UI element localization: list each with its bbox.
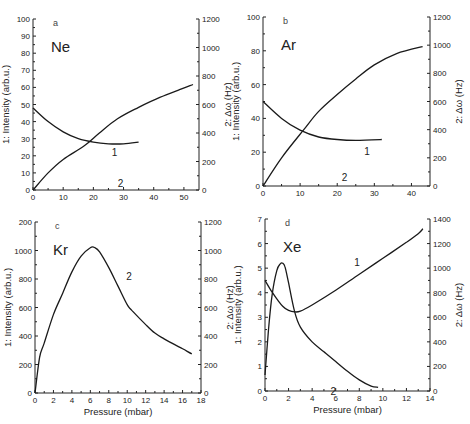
x-tick-label: 40	[149, 193, 158, 202]
x-tick-label: 2	[51, 396, 56, 405]
y-tick-label-right: 0	[204, 389, 209, 398]
y-tick-label-right: 1200	[204, 218, 222, 227]
y-tick-label-left: 4	[258, 289, 263, 298]
figure: 0102030405001020304050607080901000200400…	[0, 0, 470, 424]
y-tick-label-left: 7	[258, 215, 263, 224]
y-tick-label-left: 40	[251, 114, 260, 123]
y-tick-label-left: 6	[258, 240, 263, 249]
gas-label: Kr	[53, 241, 68, 258]
y-tick-label-right: 1000	[433, 264, 451, 273]
y-tick-label-left: 40	[21, 118, 30, 127]
y-tick-label-right: 200	[433, 154, 447, 163]
y-tick-label-right: 800	[433, 289, 447, 298]
x-tick-label: 30	[119, 193, 128, 202]
y-tick-label-left: 1	[258, 362, 263, 371]
y-tick-label-left: 3	[258, 313, 263, 322]
y-tick-label-left: 800	[19, 275, 33, 284]
panel-c: 0246810121416180200400600800100020002004…	[2, 218, 235, 417]
y-tick-label-right: 1000	[202, 44, 220, 53]
y-tick-label-right: 0	[202, 186, 207, 195]
x-axis-title: Pressure (mbar)	[313, 404, 382, 415]
y-tick-label-left: 0	[258, 387, 263, 396]
x-tick-label: 8	[107, 396, 112, 405]
y-tick-label-right: 200	[202, 158, 216, 167]
y-axis-left-title: 1: Intensity (arb.u.)	[0, 65, 11, 144]
y-tick-label-left: 200	[19, 218, 33, 227]
curve-label-2: 2	[342, 172, 348, 183]
panel-letter: c	[55, 221, 60, 231]
y-tick-label-right: 200	[433, 362, 447, 371]
y-axis-right-title: 2: Δω (Hz)	[453, 283, 464, 327]
y-tick-label-right: 0	[433, 182, 438, 191]
y-tick-label-left: 30	[21, 135, 30, 144]
panel-d: 0246810121401234567020040060080010001200…	[232, 215, 464, 415]
y-tick-label-right: 800	[202, 72, 216, 81]
y-tick-label-left: 1000	[14, 247, 32, 256]
curve-2	[35, 247, 192, 393]
x-axis-title: Pressure (mbar)	[84, 406, 153, 417]
y-tick-label-left: 0	[256, 182, 261, 191]
y-tick-label-right: 400	[433, 126, 447, 135]
curve-2	[265, 263, 378, 387]
curve-2	[263, 47, 423, 186]
x-tick-label: 10	[123, 396, 132, 405]
y-tick-label-right: 600	[202, 101, 216, 110]
y-tick-label-left: 70	[21, 66, 30, 75]
x-tick-label: 4	[70, 396, 75, 405]
gas-label: Ar	[281, 36, 296, 53]
curve-label-2: 2	[331, 386, 337, 397]
y-axis-left-title: 1: Intensity (arb.u.)	[232, 265, 243, 344]
y-tick-label-left: 100	[17, 15, 31, 24]
x-tick-label: 0	[33, 396, 38, 405]
curve-label-1: 1	[354, 257, 360, 268]
panel-letter: d	[285, 218, 290, 228]
curve-label-2: 2	[118, 178, 124, 189]
x-tick-label: 0	[31, 193, 36, 202]
y-tick-label-right: 1200	[433, 13, 451, 22]
x-tick-label: 14	[160, 396, 169, 405]
y-axis-left-title: 1: Intensity (arb.u.)	[230, 62, 241, 141]
x-tick-label: 10	[296, 189, 305, 198]
x-tick-label: 16	[178, 396, 187, 405]
curve-label-2: 2	[126, 271, 132, 282]
y-tick-label-right: 800	[433, 69, 447, 78]
y-tick-label-right: 1000	[204, 247, 222, 256]
y-tick-label-left: 100	[247, 13, 261, 22]
y-axis-right-title: 2: Δω (Hz)	[453, 79, 464, 123]
panel-letter: a	[53, 18, 58, 28]
x-tick-label: 6	[88, 396, 93, 405]
x-tick-label: 10	[378, 394, 387, 403]
y-tick-label-left: 10	[21, 169, 30, 178]
y-tick-label-right: 1200	[433, 240, 451, 249]
y-tick-label-left: 2	[258, 338, 263, 347]
y-tick-label-left: 60	[21, 83, 30, 92]
y-axis-left-title: 1: Intensity (arb.u.)	[2, 268, 13, 347]
y-tick-label-right: 800	[204, 275, 218, 284]
y-tick-label-right: 200	[204, 361, 218, 370]
y-tick-label-left: 5	[258, 264, 263, 273]
panel-letter: b	[283, 16, 288, 26]
y-tick-label-left: 80	[21, 49, 30, 58]
y-tick-label-right: 1400	[433, 215, 451, 224]
y-tick-label-left: 90	[21, 32, 30, 41]
x-tick-label: 40	[407, 189, 416, 198]
x-tick-label: 8	[357, 394, 362, 403]
y-tick-label-left: 80	[251, 47, 260, 56]
x-tick-label: 50	[179, 193, 188, 202]
x-tick-label: 12	[402, 394, 411, 403]
x-tick-label: 12	[141, 396, 150, 405]
y-tick-label-left: 20	[21, 152, 30, 161]
x-tick-label: 10	[59, 193, 68, 202]
y-tick-label-left: 600	[19, 304, 33, 313]
y-tick-label-left: 20	[251, 148, 260, 157]
y-tick-label-right: 0	[433, 387, 438, 396]
y-tick-label-right: 600	[433, 98, 447, 107]
x-tick-label: 2	[286, 394, 291, 403]
curve-label-1: 1	[364, 146, 370, 157]
y-tick-label-left: 60	[251, 81, 260, 90]
y-tick-label-left: 0	[28, 389, 33, 398]
y-tick-label-left: 200	[19, 361, 33, 370]
y-tick-label-right: 600	[433, 313, 447, 322]
x-tick-label: 30	[370, 189, 379, 198]
gas-label: Xe	[283, 238, 301, 255]
